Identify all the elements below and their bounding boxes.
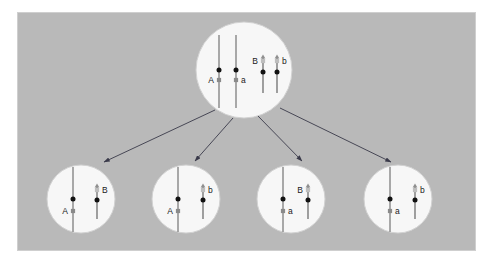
allele-marker-square [201,188,205,192]
allele-label-b: b [282,56,287,66]
chromosome-assortment-figure: AaBbABAbaBab [0,0,492,264]
centromere-dot [95,198,100,203]
centromere-dot [388,197,393,202]
centromere-dot [217,68,222,73]
allele-label-B: B [252,56,258,66]
allele-marker-square [71,209,75,213]
cell-membrane [47,165,115,233]
centromere-dot [413,198,418,203]
allele-marker-square [217,78,221,82]
allele-marker-square [281,209,285,213]
cell-membrane [152,165,220,233]
allele-label-B: B [297,185,303,195]
allele-marker-square [306,188,310,192]
centromere-dot [306,198,311,203]
centromere-dot [176,197,181,202]
allele-marker-square [234,78,238,82]
allele-label-A: A [167,206,173,216]
centromere-dot [71,197,76,202]
allele-label-B: B [102,185,108,195]
centromere-dot [281,197,286,202]
allele-label-a: a [395,206,400,216]
daughter-cell-ab: ab [364,165,432,233]
allele-label-A: A [208,75,214,85]
allele-label-a: a [241,75,246,85]
allele-marker-square [95,188,99,192]
allele-marker-square [261,59,265,63]
allele-label-a: a [288,206,293,216]
centromere-dot [275,70,280,75]
daughter-cell-AB: AB [47,165,115,233]
centromere-dot [261,70,266,75]
allele-marker-square [413,188,417,192]
centromere-dot [201,198,206,203]
allele-marker-square [176,209,180,213]
parent-cell: AaBb [196,22,292,118]
cell-membrane [257,165,325,233]
allele-label-A: A [62,206,68,216]
daughter-cell-aB: aB [257,165,325,233]
allele-label-b: b [208,185,213,195]
allele-label-b: b [420,185,425,195]
figure-canvas: AaBbABAbaBab [0,0,492,264]
allele-marker-square [275,59,279,63]
allele-marker-square [388,209,392,213]
centromere-dot [234,68,239,73]
daughter-cell-Ab: Ab [152,165,220,233]
cell-membrane [364,165,432,233]
